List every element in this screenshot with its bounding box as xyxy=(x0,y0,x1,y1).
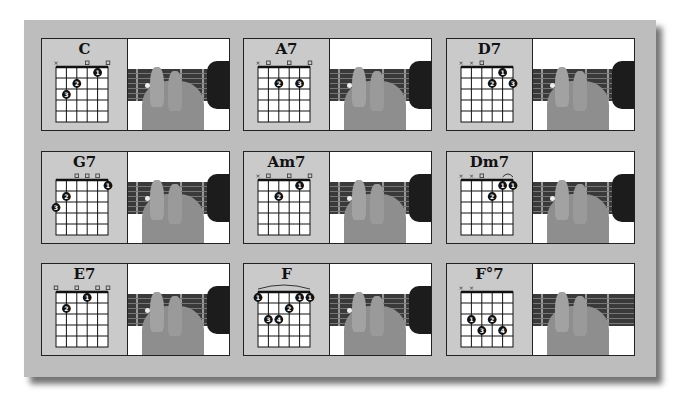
svg-text:1: 1 xyxy=(95,69,99,76)
hand-position-photo xyxy=(330,39,431,130)
svg-text:4: 4 xyxy=(277,316,282,323)
open-string-icon xyxy=(106,286,110,290)
fretboard-grid: ××213 xyxy=(455,55,525,125)
fretboard-grid: ×321 xyxy=(50,55,120,125)
open-string-icon xyxy=(75,174,79,178)
chord-diagram: F134211 xyxy=(244,264,330,355)
svg-text:1: 1 xyxy=(297,294,301,301)
svg-text:3: 3 xyxy=(480,327,484,334)
svg-text:1: 1 xyxy=(511,182,515,189)
hand-position-photo xyxy=(128,152,229,243)
svg-text:2: 2 xyxy=(75,80,79,87)
open-string-icon xyxy=(96,286,100,290)
headstock-image xyxy=(409,286,431,334)
chord-card: Dm7××211 xyxy=(446,151,635,244)
svg-text:2: 2 xyxy=(64,193,68,200)
open-string-icon xyxy=(480,61,484,65)
chord-card: A7×23 xyxy=(243,38,432,131)
fretboard-grid: ××1324 xyxy=(455,280,525,350)
fretboard-grid: ×21 xyxy=(252,168,322,238)
svg-text:1: 1 xyxy=(500,69,504,76)
headstock-image xyxy=(612,61,634,109)
muted-string-icon: × xyxy=(469,172,474,179)
hand-position-photo xyxy=(128,264,229,355)
chord-diagram: F°7××1324 xyxy=(447,264,533,355)
svg-text:2: 2 xyxy=(277,80,281,87)
muted-string-icon: × xyxy=(255,59,260,66)
muted-string-icon: × xyxy=(469,284,474,291)
muted-string-icon: × xyxy=(469,59,474,66)
chord-diagram: Dm7××211 xyxy=(447,152,533,243)
svg-text:3: 3 xyxy=(266,316,270,323)
fretboard-grid: 134211 xyxy=(252,280,322,350)
open-string-icon xyxy=(75,286,79,290)
open-string-icon xyxy=(287,174,291,178)
headstock-image xyxy=(409,174,431,222)
svg-text:3: 3 xyxy=(64,91,68,98)
hand-position-photo xyxy=(533,39,634,130)
headstock-image xyxy=(207,174,229,222)
svg-text:2: 2 xyxy=(287,305,291,312)
hand-position-photo xyxy=(330,264,431,355)
open-string-icon xyxy=(267,61,271,65)
hand-position-photo xyxy=(533,152,634,243)
barre-arc-icon xyxy=(258,285,310,289)
svg-text:2: 2 xyxy=(490,80,494,87)
muted-string-icon: × xyxy=(53,59,58,66)
chord-diagram: Am7×21 xyxy=(244,152,330,243)
chord-card: D7××213 xyxy=(446,38,635,131)
muted-string-icon: × xyxy=(458,172,463,179)
headstock-image xyxy=(207,286,229,334)
svg-text:4: 4 xyxy=(500,327,505,334)
headstock-image xyxy=(207,61,229,109)
muted-string-icon: × xyxy=(458,284,463,291)
svg-text:2: 2 xyxy=(64,305,68,312)
fretboard-grid: ××211 xyxy=(455,168,525,238)
svg-text:1: 1 xyxy=(500,182,504,189)
fretboard-grid: ×23 xyxy=(252,55,322,125)
open-string-icon xyxy=(308,61,312,65)
open-string-icon xyxy=(480,174,484,178)
svg-text:2: 2 xyxy=(277,193,281,200)
chord-diagram: D7××213 xyxy=(447,39,533,130)
svg-text:2: 2 xyxy=(490,316,494,323)
chord-diagram: C×321 xyxy=(42,39,128,130)
hand-position-photo xyxy=(330,152,431,243)
headstock-image xyxy=(409,61,431,109)
fretboard-grid: 21 xyxy=(50,280,120,350)
hand-position-photo xyxy=(533,264,634,355)
svg-text:1: 1 xyxy=(308,294,312,301)
open-string-icon xyxy=(106,61,110,65)
open-string-icon xyxy=(308,174,312,178)
svg-text:1: 1 xyxy=(106,182,110,189)
muted-string-icon: × xyxy=(255,172,260,179)
open-string-icon xyxy=(54,286,58,290)
chord-diagram: G7321 xyxy=(42,152,128,243)
muted-string-icon: × xyxy=(458,59,463,66)
fretboard-grid: 321 xyxy=(50,168,120,238)
open-string-icon xyxy=(96,174,100,178)
chord-diagram: E721 xyxy=(42,264,128,355)
chord-card: Am7×21 xyxy=(243,151,432,244)
headstock-image xyxy=(612,174,634,222)
svg-text:3: 3 xyxy=(511,80,515,87)
open-string-icon xyxy=(85,174,89,178)
chord-card: C×321 xyxy=(41,38,230,131)
svg-text:1: 1 xyxy=(297,182,301,189)
svg-text:1: 1 xyxy=(469,316,473,323)
svg-text:2: 2 xyxy=(490,193,494,200)
chord-card: G7321 xyxy=(41,151,230,244)
hand-position-photo xyxy=(128,39,229,130)
svg-text:3: 3 xyxy=(297,80,301,87)
svg-text:1: 1 xyxy=(85,294,89,301)
open-string-icon xyxy=(85,61,89,65)
svg-text:3: 3 xyxy=(54,204,58,211)
svg-text:1: 1 xyxy=(256,294,260,301)
barre-arc-icon xyxy=(503,174,513,177)
chord-card: F134211 xyxy=(243,263,432,356)
chord-card: E721 xyxy=(41,263,230,356)
chord-card: F°7××1324 xyxy=(446,263,635,356)
chord-diagram: A7×23 xyxy=(244,39,330,130)
open-string-icon xyxy=(287,61,291,65)
open-string-icon xyxy=(267,174,271,178)
